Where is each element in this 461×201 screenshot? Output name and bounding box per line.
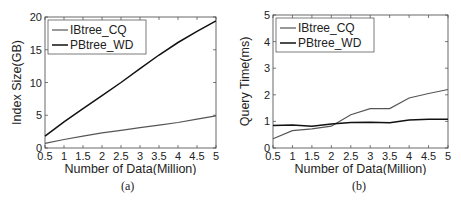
chart-b-series-pbtree-wd (273, 119, 448, 126)
chart-a-xtick-label: 2.5 (113, 150, 128, 162)
chart-b-legend-label: PBtree_WD (298, 36, 362, 50)
chart-a-series-ibtree-cq (45, 116, 216, 143)
chart-a-xtick-label: 1.5 (75, 150, 90, 162)
chart-b-ytick-label: 3 (264, 62, 270, 74)
chart-b-ylabel: Query Time(ms) (238, 37, 252, 127)
chart-a-ytick-label: 10 (30, 77, 42, 89)
chart-b-xtick-label: 2.5 (343, 150, 358, 162)
chart-a-caption: (a) (121, 179, 134, 194)
chart-a-xtick-label: 4.5 (189, 150, 204, 162)
chart-b-plot: 0.511.522.533.544.55012345Number of Data… (230, 0, 461, 175)
chart-a-ytick-label: 15 (30, 44, 42, 56)
chart-a: 0.511.522.533.544.5505101520Number of Da… (0, 0, 230, 201)
chart-b-xtick-label: 2 (328, 150, 334, 162)
chart-b-ytick-label: 5 (264, 9, 270, 21)
chart-b-xtick-label: 1.5 (304, 150, 319, 162)
chart-a-plot: 0.511.522.533.544.5505101520Number of Da… (0, 0, 230, 175)
chart-b-ytick-label: 2 (264, 89, 270, 101)
chart-b-xtick-label: 4.5 (421, 150, 436, 162)
chart-b-caption: (b) (352, 179, 366, 194)
chart-b-ytick-label: 4 (264, 36, 270, 48)
chart-b-xtick-label: 5 (445, 150, 451, 162)
chart-a-xlabel: Number of Data(Million) (65, 162, 197, 175)
chart-a-legend-label: IBtree_CQ (70, 23, 127, 37)
chart-b: 0.511.522.533.544.55012345Number of Data… (230, 0, 461, 201)
chart-a-ylabel: Index Size(GB) (10, 40, 24, 125)
chart-b-series-ibtree-cq (273, 90, 448, 139)
chart-a-ytick-label: 5 (36, 109, 42, 121)
chart-b-ytick-label: 0 (264, 142, 270, 154)
chart-a-xtick-label: 1 (61, 150, 67, 162)
chart-a-xtick-label: 3 (137, 150, 143, 162)
chart-b-xtick-label: 3 (367, 150, 373, 162)
chart-b-ytick-label: 1 (264, 115, 270, 127)
chart-a-xtick-label: 3.5 (151, 150, 166, 162)
chart-a-legend-label: PBtree_WD (70, 38, 134, 52)
chart-a-xtick-label: 5 (213, 150, 219, 162)
chart-b-xtick-label: 4 (406, 150, 412, 162)
chart-a-xtick-label: 4 (175, 150, 181, 162)
chart-b-legend-label: IBtree_CQ (298, 21, 355, 35)
chart-b-xlabel: Number of Data(Million) (295, 162, 427, 175)
chart-a-xtick-label: 2 (99, 150, 105, 162)
chart-a-ytick-label: 0 (36, 142, 42, 154)
chart-a-ytick-label: 20 (30, 11, 42, 23)
chart-b-xtick-label: 1 (289, 150, 295, 162)
chart-b-xtick-label: 3.5 (382, 150, 397, 162)
